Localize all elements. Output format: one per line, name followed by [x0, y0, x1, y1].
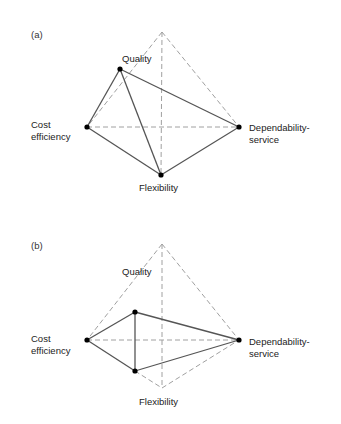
axis-label-quality: Quality — [122, 53, 152, 64]
point-cost-efficiency — [84, 124, 89, 129]
point-quality — [117, 66, 122, 71]
axis-label-flexibility: Flexibility — [139, 182, 178, 193]
panel-a-label: (a) — [31, 29, 43, 40]
axis-label-cost-line2: efficiency — [31, 131, 70, 142]
panel-a-profile — [87, 69, 239, 175]
point-dependability-service — [236, 337, 241, 342]
panel-a-frame — [87, 32, 239, 175]
point-dependability-service — [236, 124, 241, 129]
axis-label-dependability-line1: Dependability- — [249, 122, 310, 133]
point-quality — [132, 309, 137, 314]
axis-label-cost-line1: Cost — [31, 119, 51, 130]
point-flexibility — [158, 172, 163, 177]
point-flexibility — [132, 368, 137, 373]
axis-label-dependability-line1: Dependability- — [249, 336, 310, 347]
panel-a-points — [84, 66, 241, 177]
axis-label-dependability-line2: service — [249, 134, 279, 145]
panel-b-profile — [87, 312, 239, 371]
axis-label-cost-line2: efficiency — [31, 345, 70, 356]
point-cost-efficiency — [84, 337, 89, 342]
panel-b-frame — [87, 244, 239, 388]
axis-label-flexibility: Flexibility — [139, 396, 178, 407]
axis-label-quality: Quality — [122, 266, 152, 277]
axis-label-dependability-line2: service — [249, 348, 279, 359]
diagram-canvas — [0, 0, 341, 424]
panel-b-label: (b) — [31, 240, 43, 251]
axis-label-cost-line1: Cost — [31, 333, 51, 344]
